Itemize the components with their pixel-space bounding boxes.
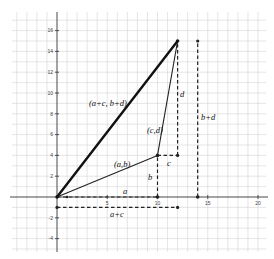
label-d: d: [180, 89, 185, 99]
label-sum-point: (a+c, b+d): [89, 98, 127, 108]
a-plus-c-end-dot: [176, 206, 179, 209]
y-tick-label: 16: [47, 27, 53, 33]
b-plus-d-top-dot: [196, 39, 199, 42]
label-b: b: [148, 172, 152, 182]
y-tick-label: 8: [50, 111, 53, 117]
label-b-plus-d: b+d: [201, 112, 216, 122]
x-tick-label: 5: [106, 200, 109, 206]
y-tick-label: -4: [49, 235, 54, 241]
label-a: a: [123, 186, 127, 196]
y-tick-label: 12: [47, 69, 53, 75]
y-tick-label: 14: [47, 48, 53, 54]
x-tick-label: 15: [205, 200, 211, 206]
x-tick-label: 10: [155, 200, 161, 206]
y-tick-label: 10: [47, 90, 53, 96]
y-tick-label: 2: [50, 173, 53, 179]
label-c: c: [167, 158, 171, 168]
y-tick-label: -2: [49, 215, 54, 221]
vector-addition-diagram: 5 10 15 20 16 14 12 10 8 6 4 2 -2 -4: [0, 0, 274, 259]
a-plus-c-start-dot: [55, 206, 58, 209]
label-ab: (a,b): [114, 159, 130, 169]
b-plus-d-bottom-dot: [196, 195, 200, 199]
label-a-plus-c: a+c: [110, 209, 124, 219]
a-start-dot: [66, 196, 69, 199]
c-end-dot: [176, 154, 179, 157]
y-tick-label: 4: [50, 152, 53, 158]
a-end-dot: [156, 195, 160, 199]
x-tick-label: 20: [255, 200, 261, 206]
y-tick-label: 6: [50, 131, 53, 137]
label-cd: (c,d): [147, 125, 163, 135]
